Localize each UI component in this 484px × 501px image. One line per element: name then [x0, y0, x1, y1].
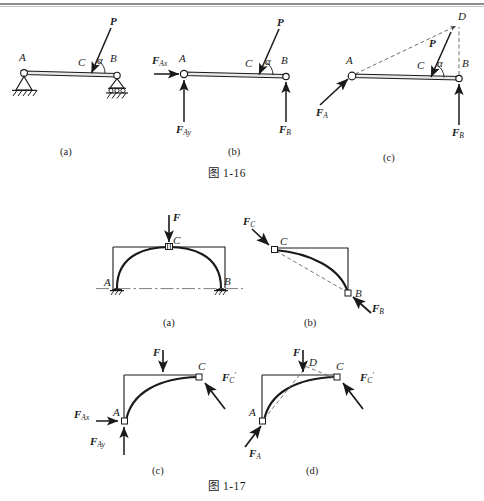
point-label-B-16a: B — [110, 53, 117, 64]
hinge-crown-a — [166, 244, 173, 250]
beam-c — [352, 74, 459, 80]
beam-a — [24, 71, 117, 77]
force-FA-arrow-c — [320, 79, 348, 105]
force-label-P-16c: P — [429, 38, 436, 49]
fig-1-17-a — [96, 215, 243, 295]
pin-triangle-a — [16, 76, 32, 90]
point-label-C-17c: C — [198, 361, 205, 372]
roller-wheel-2 — [115, 89, 119, 93]
figure-vector-layer — [0, 0, 484, 501]
point-label-A-16c: A — [346, 55, 353, 66]
subfigure-label-16c: (c) — [383, 153, 395, 164]
arch-curve-c — [126, 377, 198, 421]
force-P-arrow-a — [92, 28, 112, 73]
angle-label-alpha-16a: α — [97, 55, 103, 66]
force-label-FAx-17c: FAx — [74, 409, 89, 420]
hinge-marker-b-B — [345, 290, 351, 296]
point-label-C-17d: C — [336, 361, 343, 372]
hinge-marker-c-A — [122, 418, 128, 424]
roller-ground-hatch-a — [107, 93, 126, 99]
force-FCprime-arrow-c — [205, 383, 225, 409]
force-label-FCprime-17d: FC′ — [360, 372, 374, 383]
force-label-FAy-17c: FAy — [90, 436, 105, 447]
point-label-C-16a: C — [78, 57, 85, 68]
point-label-A-16b: A — [179, 53, 186, 64]
force-label-P-16a: P — [110, 16, 117, 27]
fig-1-16-c — [320, 26, 462, 125]
roller-triangle-a — [110, 79, 124, 88]
point-label-A-17d: A — [249, 407, 256, 418]
point-label-C-16b: C — [245, 58, 252, 69]
point-label-B-17a: B — [224, 276, 231, 287]
frame-outline-a — [113, 247, 225, 288]
hinge-circle-b-B — [283, 73, 289, 79]
ground-hatch-17a-B — [215, 291, 226, 295]
hinge-marker-d-C — [334, 374, 340, 380]
point-label-B-16b: B — [281, 55, 288, 66]
caption-figure-1-16: 图 1-16 — [208, 168, 246, 180]
point-label-A-17c: A — [113, 407, 120, 418]
fig-1-17-c — [96, 350, 225, 455]
subfigure-label-17d: (d) — [306, 466, 318, 477]
point-label-D-16c: D — [458, 11, 466, 22]
hinge-circle-b-A — [180, 70, 187, 77]
point-label-A-17a: A — [104, 277, 111, 288]
point-label-C-17a: C — [173, 235, 180, 246]
point-label-D-17d: D — [309, 357, 317, 368]
arch-curve-a — [117, 247, 221, 288]
force-label-FB-16b: FB — [279, 124, 291, 135]
subfigure-label-17b: (b) — [304, 318, 316, 329]
force-label-FC-17b: FC — [243, 216, 255, 227]
force-label-FAx-16b: FAx — [152, 55, 167, 66]
force-label-FAy-16b: FAy — [176, 124, 191, 135]
angle-label-alpha-16c: α — [437, 58, 443, 69]
fig-1-16-b — [154, 29, 289, 122]
roller-wheel-1 — [109, 89, 113, 93]
point-label-B-16c: B — [462, 58, 469, 69]
figure-page: A B C P α (a) A B C P α FAx FAy FB (b) A… — [0, 0, 484, 501]
subfigure-label-17c: (c) — [152, 466, 164, 477]
point-label-B-17b: B — [355, 288, 362, 299]
force-FC-arrow-b — [252, 229, 269, 245]
hinge-marker-c-C — [196, 374, 202, 380]
hinge-circle-c-A — [348, 72, 356, 80]
subfigure-label-16b: (b) — [228, 147, 240, 158]
beam-b — [184, 72, 286, 78]
force-label-FA-16c: FA — [316, 107, 328, 118]
force-label-F-17c: F — [153, 347, 160, 358]
fig-1-17-d — [245, 350, 363, 447]
subfigure-label-17a: (a) — [163, 318, 175, 329]
force-label-FA-17d: FA — [249, 448, 261, 459]
hinge-marker-b-C — [272, 247, 278, 253]
force-FA-arrow-17d — [245, 426, 261, 447]
point-label-A-16a: A — [19, 52, 26, 63]
force-FB-arrow-17b — [353, 297, 371, 313]
force-label-FCprime-17c: FC′ — [222, 372, 236, 383]
force-FCprime-arrow-d — [343, 383, 363, 409]
subfigure-label-16a: (a) — [60, 147, 72, 158]
roller-wheel-3 — [121, 89, 125, 93]
arch-curve-d — [264, 377, 336, 421]
hinge-circle-c-B — [456, 75, 462, 81]
point-label-C-17b: C — [280, 236, 287, 247]
angle-label-alpha-16b: α — [265, 56, 271, 67]
ground-hatch-17a-A — [111, 291, 122, 295]
frame-outline-d — [262, 375, 337, 419]
force-label-F-17a: F — [173, 212, 180, 223]
force-label-P-16b: P — [277, 17, 284, 28]
caption-figure-1-17: 图 1-17 — [208, 481, 246, 493]
force-label-FB-17b: FB — [372, 303, 384, 314]
force-label-FB-16c: FB — [452, 127, 464, 138]
ground-hatch-a — [13, 90, 37, 96]
force-P-arrow-b — [259, 29, 279, 75]
frame-outline-c — [124, 375, 199, 419]
point-label-C-16c: C — [417, 60, 424, 71]
force-label-F-17d: F — [293, 347, 300, 358]
fig-1-17-b — [252, 229, 371, 313]
